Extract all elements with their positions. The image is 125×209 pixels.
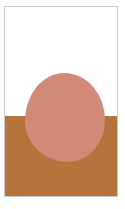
artwork-canvas	[5, 7, 117, 196]
artwork-frame	[4, 6, 118, 197]
pink-blob-shape	[25, 73, 105, 162]
